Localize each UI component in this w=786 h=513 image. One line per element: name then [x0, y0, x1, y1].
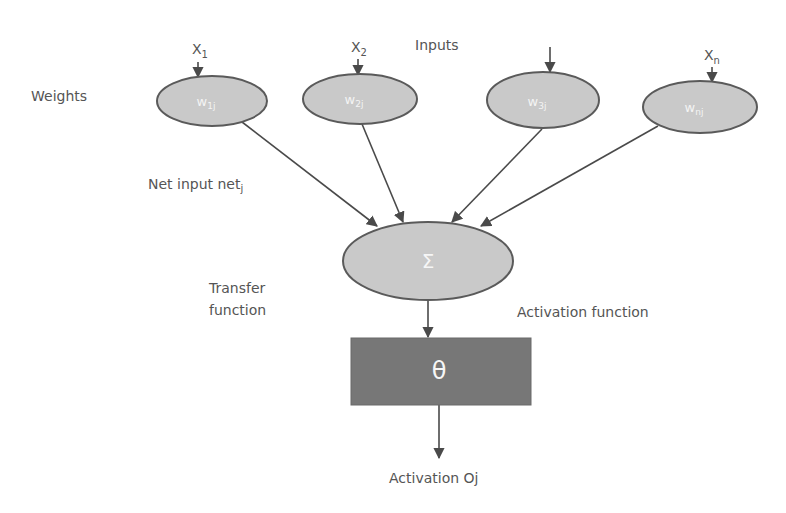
- input-label-1: X1: [192, 41, 208, 60]
- transfer-function-label-2: function: [209, 302, 266, 318]
- activation-output-label: Activation Oj: [389, 470, 478, 486]
- weights-label: Weights: [31, 88, 87, 104]
- weight-node-1: w1j: [157, 76, 267, 126]
- sigma-symbol: Σ: [422, 249, 435, 273]
- weight-node-2: w2j: [303, 74, 417, 124]
- weight-node-n: wnj: [643, 81, 757, 133]
- weight-node-3: w3j: [487, 72, 599, 128]
- transfer-function-label: Transfer: [208, 280, 266, 296]
- weight-arrow-2: [362, 124, 403, 222]
- weight-arrow-3: [452, 129, 542, 222]
- summation-node: Σ: [343, 222, 513, 300]
- neuron-diagram: w1j w2j w3j wnj Σ θ X1 X2 Xn Inputs: [0, 0, 786, 513]
- diagram-canvas: w1j w2j w3j wnj Σ θ X1 X2 Xn Inputs: [0, 0, 786, 513]
- activation-function-label: Activation function: [517, 304, 649, 320]
- input-label-2: X2: [351, 39, 367, 58]
- theta-symbol: θ: [432, 357, 447, 385]
- net-input-label: Net input netj: [148, 176, 243, 194]
- weight-arrow-1: [242, 122, 377, 226]
- activation-node: θ: [351, 338, 531, 405]
- inputs-label: Inputs: [415, 37, 459, 53]
- input-label-n: Xn: [704, 47, 720, 66]
- weight-arrow-n: [481, 126, 658, 226]
